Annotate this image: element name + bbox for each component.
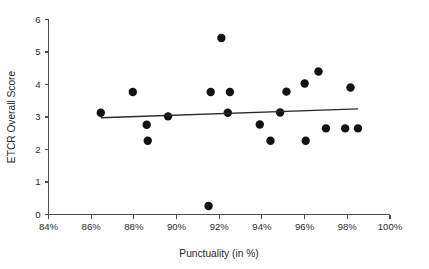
y-tick-label: 4 <box>35 79 41 90</box>
x-tick-label: 86% <box>82 221 102 232</box>
data-point <box>282 87 290 95</box>
x-tick-label: 88% <box>124 221 144 232</box>
x-axis-title: Punctuality (in %) <box>179 248 258 259</box>
data-point <box>142 121 150 129</box>
y-tick-group: 0123456 <box>35 14 48 220</box>
data-point <box>217 34 225 42</box>
y-tick-label: 0 <box>35 209 40 220</box>
data-point <box>276 108 284 116</box>
y-axis-title: ETCR Overall Score <box>6 71 17 164</box>
data-point <box>300 79 308 87</box>
x-tick-label: 100% <box>378 221 403 232</box>
data-point <box>97 109 105 117</box>
y-tick-label: 6 <box>35 14 40 25</box>
scatter-chart-figure: 0123456 84%86%88%90%92%94%96%98%100% Pun… <box>0 0 429 269</box>
data-points-layer <box>97 34 363 210</box>
x-tick-label: 84% <box>39 221 59 232</box>
data-point <box>164 112 172 120</box>
y-tick-label: 5 <box>35 46 40 57</box>
y-tick-label: 2 <box>35 144 40 155</box>
data-point <box>301 137 309 145</box>
data-point <box>266 137 274 145</box>
data-point <box>129 88 137 96</box>
data-point <box>314 67 322 75</box>
y-tick-label: 3 <box>35 111 40 122</box>
data-point <box>226 88 234 96</box>
x-tick-group: 84%86%88%90%92%94%96%98%100% <box>39 215 403 232</box>
x-tick-label: 92% <box>210 221 230 232</box>
data-point <box>322 124 330 132</box>
data-point <box>144 137 152 145</box>
data-point <box>204 202 212 210</box>
chart-canvas: 0123456 84%86%88%90%92%94%96%98%100% Pun… <box>0 0 429 269</box>
y-tick-label: 1 <box>35 176 40 187</box>
x-tick-label: 98% <box>338 221 358 232</box>
data-point <box>346 83 354 91</box>
data-point <box>354 124 362 132</box>
x-tick-label: 96% <box>295 221 315 232</box>
x-tick-label: 94% <box>252 221 272 232</box>
data-point <box>341 124 349 132</box>
x-tick-label: 90% <box>167 221 187 232</box>
data-point <box>207 88 215 96</box>
data-point <box>256 120 264 128</box>
